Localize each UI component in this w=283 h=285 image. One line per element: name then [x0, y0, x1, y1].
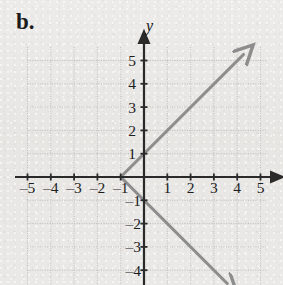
y-axis-label: y — [144, 17, 154, 35]
x-tick-label: 3 — [210, 179, 218, 196]
x-tick-label: 1 — [163, 179, 171, 196]
y-tick-label: –2 — [125, 215, 142, 232]
x-tick-label: 2 — [187, 179, 195, 196]
y-tick-label: 2 — [128, 122, 136, 139]
y-tick-label: –4 — [125, 262, 142, 279]
x-tick-labels: –5 –4 –3 –2 –1 1 2 3 4 5 — [19, 179, 265, 196]
x-tick-label: –4 — [42, 179, 59, 196]
x-tick-label: –2 — [89, 179, 106, 196]
x-tick-label: –5 — [19, 179, 36, 196]
grid-lines — [28, 47, 267, 285]
y-tick-label: 5 — [128, 52, 136, 69]
y-tick-label: 3 — [128, 99, 136, 116]
y-tick-label: –3 — [125, 238, 142, 255]
axis-lines — [15, 42, 272, 285]
graph-figure: b. — [0, 0, 283, 285]
x-tick-label: 4 — [233, 179, 241, 196]
coordinate-plane: y –5 –4 –3 –2 –1 1 2 3 4 5 5 4 3 2 1 –1 … — [0, 0, 283, 285]
y-tick-label: 1 — [128, 145, 136, 162]
x-tick-label: –3 — [65, 179, 82, 196]
x-tick-label: 5 — [257, 179, 265, 196]
y-tick-label: –1 — [125, 192, 142, 209]
y-tick-label: 4 — [128, 75, 136, 92]
upper-ray — [121, 55, 244, 178]
